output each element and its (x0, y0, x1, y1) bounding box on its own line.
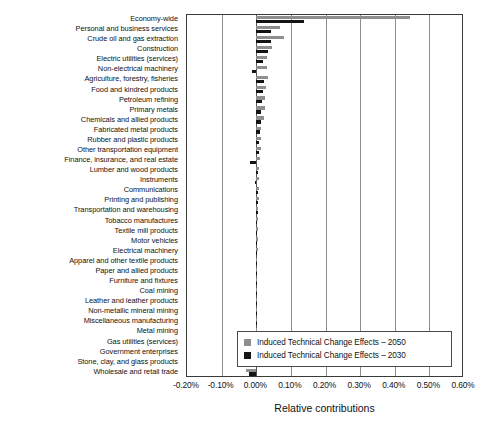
x-axis-tick-labels: -0.20%-0.10%0.00%0.10%0.20%0.30%0.40%0.5… (0, 380, 488, 394)
bar-2030 (256, 201, 257, 204)
bar-2030 (256, 20, 304, 23)
category-label: Miscellaneous manufacturing (0, 316, 182, 326)
bar-2050 (256, 106, 264, 109)
category-label: Government enterprises (0, 347, 182, 357)
bar-2050 (256, 116, 263, 119)
bar-2030 (256, 292, 257, 295)
bar-row (187, 237, 462, 247)
legend-swatch-2030-icon (244, 352, 251, 359)
category-label: Rubber and plastic products (0, 135, 182, 145)
bar-row (187, 227, 462, 237)
category-label: Leather and leather products (0, 296, 182, 306)
bar-row (187, 55, 462, 65)
bar-2030 (256, 322, 257, 325)
category-label: Motor vehicles (0, 236, 182, 246)
bar-2050 (256, 157, 260, 160)
bar-2050 (256, 237, 257, 240)
x-axis-title: Relative contributions (186, 402, 463, 414)
category-label: Wholesale and retail trade (0, 367, 182, 377)
bar-2050 (256, 288, 257, 291)
bar-2050 (256, 76, 268, 79)
category-label: Metal mining (0, 326, 182, 336)
bar-2050 (256, 278, 257, 281)
category-label: Instruments (0, 175, 182, 185)
bar-row (187, 126, 462, 136)
x-tick-label: 0.60% (451, 380, 474, 390)
bar-2030 (256, 312, 257, 315)
category-label: Primary metals (0, 105, 182, 115)
bar-2050 (256, 248, 257, 251)
bar-row (187, 146, 462, 156)
bar-2030 (256, 30, 271, 33)
bar-row (187, 86, 462, 96)
bar-2030 (249, 372, 256, 375)
bar-2050 (256, 46, 272, 49)
bar-2030 (256, 100, 262, 103)
category-label: Food and kindred products (0, 85, 182, 95)
category-label: Other transportation equipment (0, 145, 182, 155)
bar-2030 (256, 141, 259, 144)
bar-2030 (256, 221, 257, 224)
bar-row (187, 217, 462, 227)
bar-2030 (256, 110, 261, 113)
category-label: Personal and business services (0, 24, 182, 34)
x-tick-label: 0.40% (382, 380, 405, 390)
bar-2030 (256, 302, 257, 305)
bar-2050 (256, 147, 261, 150)
bar-2030 (256, 40, 271, 43)
bar-row (187, 166, 462, 176)
bar-2030 (256, 231, 257, 234)
x-tick-label: 0.20% (313, 380, 336, 390)
category-label: Transportation and warehousing (0, 205, 182, 215)
category-label: Electrical machinery (0, 246, 182, 256)
bar-row (187, 257, 462, 267)
bar-row (187, 35, 462, 45)
bar-2050 (256, 56, 266, 59)
bar-row (187, 197, 462, 207)
bar-row (187, 318, 462, 328)
legend-item-2030: Induced Technical Change Effects – 2030 (244, 349, 445, 362)
bar-row (187, 277, 462, 287)
bar-2030 (256, 211, 257, 214)
legend-label-2050: Induced Technical Change Effects – 2050 (257, 338, 406, 347)
bar-2050 (256, 227, 258, 230)
bar-2030 (250, 161, 257, 164)
category-label: Paper and allied products (0, 266, 182, 276)
category-label: Non-metallic mineral mining (0, 306, 182, 316)
category-label: Tobacco manufactures (0, 216, 182, 226)
category-label: Gas utilities (services) (0, 337, 182, 347)
bar-2050 (256, 217, 258, 220)
bar-2050 (256, 207, 258, 210)
bar-row (187, 96, 462, 106)
bar-2050 (256, 258, 257, 261)
bar-2050 (256, 16, 410, 19)
bar-row (187, 186, 462, 196)
bar-row (187, 176, 462, 186)
x-tick-label: 0.00% (244, 380, 267, 390)
bar-2050 (256, 36, 284, 39)
bar-2030 (256, 120, 261, 123)
bar-2050 (256, 187, 259, 190)
category-label: Crude oil and gas extraction (0, 34, 182, 44)
bar-2050 (246, 369, 256, 372)
bar-row (187, 156, 462, 166)
category-label: Coal mining (0, 286, 182, 296)
bar-2050 (256, 86, 266, 89)
bar-row (187, 45, 462, 55)
category-label: Petroleum refining (0, 95, 182, 105)
category-label: Printing and publishing (0, 195, 182, 205)
bar-row (187, 247, 462, 257)
x-tick-label: -0.10% (208, 380, 234, 390)
bar-2030 (256, 90, 263, 93)
bar-row (187, 116, 462, 126)
bar-2050 (256, 127, 261, 130)
bar-2030 (255, 181, 257, 184)
bar-2050 (256, 268, 257, 271)
bar-2030 (256, 282, 257, 285)
legend-swatch-2050-icon (244, 339, 251, 346)
category-label: Electric utilities (services) (0, 54, 182, 64)
bar-2050 (256, 177, 259, 180)
bar-2050 (256, 96, 265, 99)
bar-row (187, 207, 462, 217)
bar-2050 (256, 197, 258, 200)
